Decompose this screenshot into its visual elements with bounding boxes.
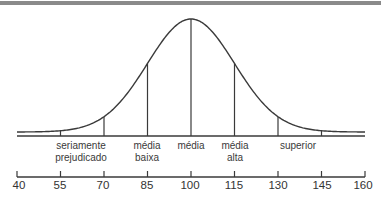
tick-label-85: 85 xyxy=(141,179,154,191)
tick-label-130: 130 xyxy=(268,179,287,191)
label-line: superior xyxy=(280,140,316,152)
label-low-average: média baixa xyxy=(133,140,160,164)
tick-label-115: 115 xyxy=(225,179,243,191)
tick-label-70: 70 xyxy=(97,179,110,191)
tick-label-55: 55 xyxy=(54,179,67,191)
tick-label-160: 160 xyxy=(353,179,372,191)
axis-ticks xyxy=(17,171,365,177)
label-average: média xyxy=(177,140,204,152)
label-line: alta xyxy=(221,152,248,164)
bell-curve-diagram xyxy=(0,0,381,203)
tick-label-40: 40 xyxy=(13,179,26,191)
label-line: média xyxy=(221,140,248,152)
label-line: média xyxy=(133,140,160,152)
label-seriously-impaired: seriamente prejudicado xyxy=(55,140,107,164)
label-high-average: média alta xyxy=(221,140,248,164)
score-markers xyxy=(61,19,322,136)
label-line: prejudicado xyxy=(55,152,107,164)
label-line: baixa xyxy=(133,152,160,164)
label-superior: superior xyxy=(280,140,316,152)
label-line: seriamente xyxy=(55,140,107,152)
tick-label-100: 100 xyxy=(180,179,199,191)
tick-label-145: 145 xyxy=(312,179,331,191)
label-line: média xyxy=(177,140,204,152)
